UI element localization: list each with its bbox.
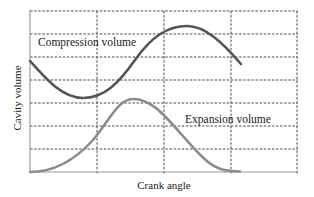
expansion-volume-curve [30, 99, 240, 172]
compression-volume-label: Compression volume [38, 36, 136, 49]
x-axis-label: Crank angle [137, 179, 191, 191]
y-axis-label: Cavity volume [11, 65, 23, 130]
cavity-volume-chart: Compression volume Expansion volume Cran… [0, 0, 314, 197]
expansion-volume-label: Expansion volume [185, 113, 271, 126]
